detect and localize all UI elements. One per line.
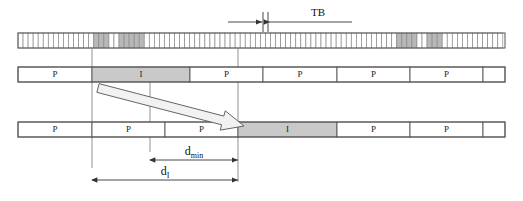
tick-cell (452, 33, 457, 48)
tick-cell (175, 33, 180, 48)
tick-cell (185, 33, 190, 48)
tick-cell (483, 33, 488, 48)
block-label: P (371, 69, 376, 79)
tick-cell (195, 33, 200, 48)
tick-cell (235, 33, 240, 48)
tick-cell (144, 33, 149, 48)
tick-cell (467, 33, 472, 48)
tick-cell (356, 33, 361, 48)
tick-cell (180, 33, 185, 48)
tick-cell (437, 33, 442, 48)
tick-cell (33, 33, 38, 48)
tick-cell (397, 33, 402, 48)
tick-cell (427, 33, 432, 48)
tick-cell (139, 33, 144, 48)
tick-cell (89, 33, 94, 48)
tick-cell (432, 33, 437, 48)
tick-cell (457, 33, 462, 48)
tick-cell (442, 33, 447, 48)
tick-cell (109, 33, 114, 48)
tick-cell (58, 33, 63, 48)
tick-cell (276, 33, 281, 48)
tick-cell (260, 33, 265, 48)
tick-cell (286, 33, 291, 48)
tick-cell (361, 33, 366, 48)
tick-cell (154, 33, 159, 48)
tick-cell (134, 33, 139, 48)
tick-cell (43, 33, 48, 48)
tick-cell (473, 33, 478, 48)
tick-cell (38, 33, 43, 48)
packet-block (483, 122, 505, 137)
tick-cell (392, 33, 397, 48)
tick-cell (28, 33, 33, 48)
tick-cell (84, 33, 89, 48)
tick-cell (159, 33, 164, 48)
tick-cell (311, 33, 316, 48)
tick-cell (225, 33, 230, 48)
receiver-frame-row: PPPIPP (18, 122, 505, 137)
tick-cell (462, 33, 467, 48)
tick-cell (316, 33, 321, 48)
block-label: P (444, 69, 449, 79)
packet-block (483, 67, 505, 82)
block-label: P (52, 124, 57, 134)
block-label: P (444, 124, 449, 134)
transmitter-frame-row: PIPPPP (18, 67, 505, 82)
tick-cell (48, 33, 53, 48)
tick-cell (99, 33, 104, 48)
tick-cell (281, 33, 286, 48)
block-label: I (140, 69, 143, 79)
tick-cell (18, 33, 23, 48)
tick-cell (488, 33, 493, 48)
tick-cell (351, 33, 356, 48)
tick-cell (23, 33, 28, 48)
tick-cell (265, 33, 270, 48)
tick-cell (119, 33, 124, 48)
tick-cell (124, 33, 129, 48)
tick-cell (346, 33, 351, 48)
tick-cell (412, 33, 417, 48)
tick-cell (271, 33, 276, 48)
tick-cell (377, 33, 382, 48)
tick-cell (200, 33, 205, 48)
tick-cell (74, 33, 79, 48)
timing-diagram-figure: TB PIPPPP PPPIPP dmindI (0, 0, 523, 201)
tick-cell (306, 33, 311, 48)
tick-cell (382, 33, 387, 48)
tick-cell (407, 33, 412, 48)
tick-cell (331, 33, 336, 48)
tick-cell (301, 33, 306, 48)
block-label: P (297, 69, 302, 79)
tick-cell (296, 33, 301, 48)
tick-cell (104, 33, 109, 48)
tick-cell (94, 33, 99, 48)
block-label: I (286, 124, 289, 134)
tick-cell (417, 33, 422, 48)
tick-cell (79, 33, 84, 48)
tick-cell (220, 33, 225, 48)
tick-cell (372, 33, 377, 48)
tick-cell (291, 33, 296, 48)
tick-cell (321, 33, 326, 48)
diagram-background (0, 0, 523, 201)
tick-cell (366, 33, 371, 48)
tick-cell (190, 33, 195, 48)
block-label: P (199, 124, 204, 134)
tick-cell (205, 33, 210, 48)
diagram-canvas: TB PIPPPP PPPIPP dmindI (0, 0, 523, 201)
tick-cell (170, 33, 175, 48)
tick-cell (478, 33, 483, 48)
tick-cell (447, 33, 452, 48)
time-base-strip (18, 33, 505, 48)
tick-cell (63, 33, 68, 48)
tick-cell (114, 33, 119, 48)
tick-cell (493, 33, 498, 48)
tick-cell (149, 33, 154, 48)
tick-cell (402, 33, 407, 48)
tick-cell (230, 33, 235, 48)
tick-cell (341, 33, 346, 48)
tick-cell (215, 33, 220, 48)
block-label: P (224, 69, 229, 79)
tick-cell (422, 33, 427, 48)
